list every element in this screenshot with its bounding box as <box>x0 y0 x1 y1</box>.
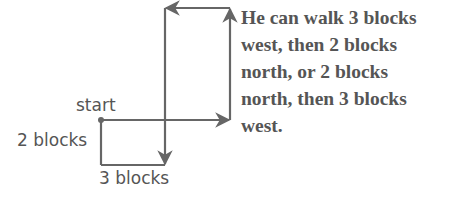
caption-line: north, or 2 blocks <box>241 58 461 85</box>
caption-line: west. <box>241 112 461 139</box>
caption-line: north, then 3 blocks <box>241 85 461 112</box>
start-label: start <box>76 95 116 115</box>
two-blocks-label: 2 blocks <box>17 130 87 150</box>
route-arrows <box>101 8 230 164</box>
caption-line: west, then 2 blocks <box>241 31 461 58</box>
grid-square <box>101 120 165 165</box>
three-blocks-label: 3 blocks <box>99 168 169 188</box>
start-point <box>98 117 104 123</box>
explanation-caption: He can walk 3 blocks west, then 2 blocks… <box>241 4 461 139</box>
caption-line: He can walk 3 blocks <box>241 4 461 31</box>
